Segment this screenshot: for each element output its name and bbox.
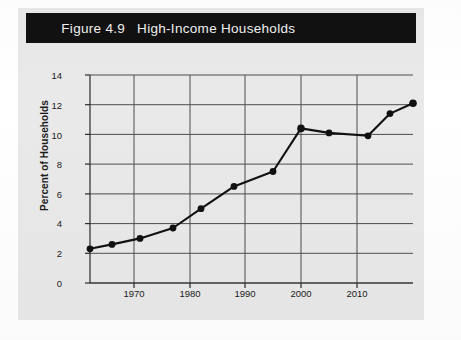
chart-canvas (0, 0, 461, 340)
data-point (87, 245, 94, 252)
figure-root: Figure 4.9High-Income Households Percent… (0, 0, 461, 340)
data-line-percent-of-households (90, 103, 413, 249)
data-point-markers (87, 99, 417, 252)
x-axis-spine (90, 283, 413, 288)
data-point (170, 225, 177, 232)
data-point (231, 183, 238, 190)
data-point (387, 110, 394, 117)
data-point (137, 235, 144, 242)
data-point (297, 125, 305, 133)
data-point (198, 205, 205, 212)
data-point (409, 99, 417, 107)
data-point (270, 168, 277, 175)
data-point (365, 132, 372, 139)
data-point (326, 130, 333, 137)
chart-plot-area: Percent of Households 14 12 10 8 6 4 2 0… (0, 0, 461, 340)
vertical-gridlines (134, 75, 357, 283)
data-point (109, 241, 116, 248)
